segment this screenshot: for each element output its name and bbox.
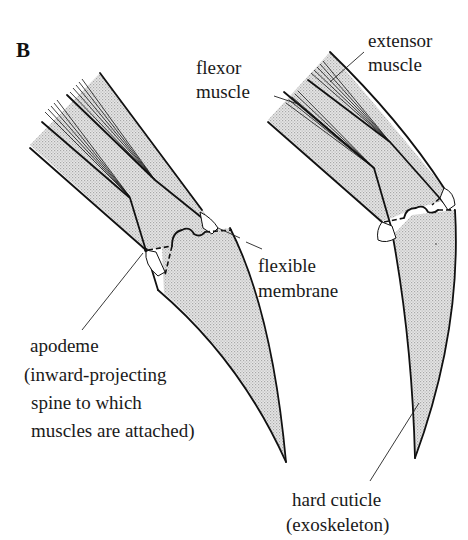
right-membrane-top: [440, 188, 455, 210]
arthropod-joint-diagram: B: [0, 0, 468, 540]
label-apodeme: apodeme (inward-projecting spine to whic…: [24, 335, 195, 442]
extensor-line2: muscle: [368, 54, 422, 75]
speck: [435, 243, 437, 245]
right-upper-segment: [268, 52, 446, 222]
panel-label: B: [16, 38, 30, 62]
apodeme-line4: muscles are attached): [31, 420, 195, 442]
apodeme-line2: (inward-projecting: [24, 364, 167, 386]
flexor-line1: flexor: [196, 57, 242, 78]
label-extensor-muscle: extensor muscle: [368, 30, 433, 75]
label-hard-cuticle: hard cuticle (exoskeleton): [286, 489, 389, 536]
cuticle-leader-line: [370, 403, 419, 481]
cuticle-line2: (exoskeleton): [286, 514, 389, 536]
cuticle-line1: hard cuticle: [292, 489, 381, 510]
label-flexible-membrane: flexible membrane: [258, 255, 338, 301]
membrane-line2: membrane: [258, 280, 338, 301]
apodeme-line3: spine to which: [31, 392, 142, 413]
membrane-line1: flexible: [258, 255, 316, 276]
right-membrane-bottom: [378, 222, 397, 242]
apodeme-point: [144, 248, 148, 252]
apodeme-leader-line: [82, 253, 143, 330]
label-flexor-muscle: flexor muscle: [196, 57, 250, 102]
left-membrane-bottom: [146, 250, 165, 276]
flexor-line2: muscle: [196, 81, 250, 102]
extensor-line1: extensor: [368, 30, 433, 51]
right-claw: [392, 210, 456, 458]
apodeme-line1: apodeme: [30, 335, 99, 356]
left-upper-segment: [30, 73, 215, 250]
